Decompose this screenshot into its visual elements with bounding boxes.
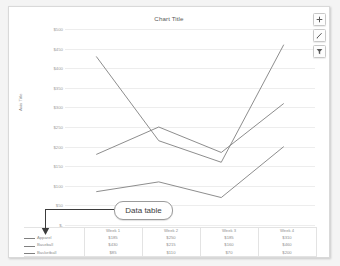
data-table[interactable]: Week 1Week 2Week 3Week 4Apparel$185$250$…: [24, 227, 316, 257]
legend-line-marker: [24, 238, 35, 239]
data-table-header-cell: Week 2: [142, 228, 200, 233]
screenshot-root: Chart Title Axis Title $500$450$400$350$…: [0, 0, 340, 266]
data-table-row-label: Baseball: [37, 242, 53, 247]
y-tick-label: $400: [53, 66, 63, 71]
y-tick-label: $100: [53, 183, 63, 188]
data-table-cell: $110: [142, 250, 200, 255]
data-table-cell: $430: [84, 242, 142, 247]
data-table-cell: $250: [142, 235, 200, 240]
data-table-vline: [316, 227, 317, 257]
series-line[interactable]: [96, 103, 284, 154]
y-tick-label: $500: [53, 27, 63, 32]
y-tick-label: $50: [56, 203, 63, 208]
chart-filters-button[interactable]: [313, 45, 326, 58]
y-tick-label: $300: [53, 105, 63, 110]
data-table-row-label: Apparel: [37, 235, 51, 240]
data-table-header-cell: Week 4: [258, 228, 316, 233]
chart-container[interactable]: Chart Title Axis Title $500$450$400$350$…: [8, 6, 330, 258]
chart-buttons-group: [313, 13, 325, 61]
filter-icon: [316, 48, 323, 55]
callout-leader-line: [45, 209, 114, 210]
data-table-cell: $185: [84, 235, 142, 240]
brush-icon: [316, 32, 323, 39]
data-table-header-cell: Week 1: [84, 228, 142, 233]
data-table-cell: $200: [258, 250, 316, 255]
plot-area[interactable]: [65, 29, 315, 225]
y-tick-label: $350: [53, 85, 63, 90]
y-axis-tick-labels: $500$450$400$350$300$250$200$150$100$50$…: [39, 29, 65, 225]
data-table-cell: $310: [258, 235, 316, 240]
y-tick-label: $150: [53, 164, 63, 169]
data-table-header-cell: Week 3: [200, 228, 258, 233]
series-line[interactable]: [96, 147, 284, 198]
callout-bubble[interactable]: Data table: [114, 201, 173, 220]
data-table-cell: $185: [200, 235, 258, 240]
callout-label: Data table: [125, 206, 161, 215]
data-table-cell: $85: [84, 250, 142, 255]
y-tick-label: $200: [53, 144, 63, 149]
data-table-hline: [24, 256, 316, 257]
gridline: [65, 225, 315, 226]
data-table-row-label: Basketball: [37, 250, 56, 255]
chart-styles-button[interactable]: [313, 29, 326, 42]
series-lines: [65, 29, 315, 225]
series-line[interactable]: [96, 45, 284, 163]
plus-icon: [316, 16, 323, 23]
legend-line-marker: [24, 246, 35, 247]
data-table-cell: $160: [200, 242, 258, 247]
data-table-cell: $460: [258, 242, 316, 247]
callout-arrowhead: [41, 226, 50, 235]
chart-elements-button[interactable]: [313, 13, 326, 26]
legend-line-marker: [24, 253, 35, 254]
y-tick-label: $250: [53, 125, 63, 130]
y-tick-label: $450: [53, 46, 63, 51]
data-table-cell: $70: [200, 250, 258, 255]
chart-title[interactable]: Chart Title: [9, 15, 329, 22]
data-table-cell: $215: [142, 242, 200, 247]
y-axis-title[interactable]: Axis Title: [18, 93, 23, 111]
